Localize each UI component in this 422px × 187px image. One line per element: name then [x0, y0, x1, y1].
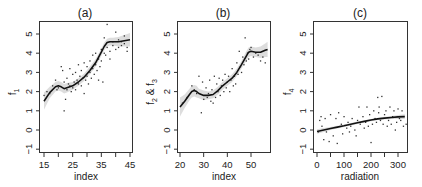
data-point	[325, 118, 326, 119]
data-point	[379, 106, 380, 107]
data-point	[352, 118, 353, 119]
data-point	[249, 49, 250, 50]
data-point	[211, 89, 212, 90]
data-point	[66, 89, 67, 90]
data-point	[124, 35, 125, 36]
data-point	[380, 120, 381, 121]
data-point	[81, 70, 82, 71]
data-point	[72, 74, 73, 75]
data-point	[104, 37, 105, 38]
data-point	[250, 47, 251, 48]
data-point	[104, 53, 105, 54]
y-tick-label: 0	[297, 127, 308, 132]
data-point	[242, 56, 243, 57]
data-point	[223, 91, 224, 92]
data-point	[319, 120, 320, 121]
data-point	[376, 122, 377, 123]
data-point	[75, 72, 76, 73]
data-point	[369, 114, 370, 115]
data-point	[396, 122, 397, 123]
y-tick-label: 1	[297, 108, 308, 113]
data-point	[109, 51, 110, 52]
data-point	[343, 116, 344, 117]
data-point	[393, 110, 394, 111]
data-point	[76, 80, 77, 81]
data-point	[356, 135, 357, 136]
data-point	[224, 74, 225, 75]
data-point	[58, 87, 59, 88]
panel-a-ylabel: f1	[7, 89, 20, 96]
data-point	[258, 55, 259, 56]
data-point	[109, 58, 110, 59]
data-point	[387, 126, 388, 127]
data-point	[191, 85, 192, 86]
data-point	[52, 85, 53, 86]
data-point	[46, 91, 47, 92]
data-point	[372, 124, 373, 125]
data-point	[71, 91, 72, 92]
data-point	[342, 133, 343, 134]
x-tick-label: 45	[125, 159, 136, 170]
panel-a-x-axis: 15253545	[39, 153, 136, 170]
y-tick-label: 4	[23, 51, 34, 56]
y-tick-label: 3	[297, 70, 308, 75]
data-point	[62, 70, 63, 71]
panel-c-ylabel-sub: 4	[288, 89, 295, 93]
data-point	[326, 131, 327, 132]
x-tick-label: 200	[363, 159, 379, 170]
data-point	[321, 126, 322, 127]
data-point	[56, 89, 57, 90]
data-point	[253, 56, 254, 57]
data-point	[88, 83, 89, 84]
panel-b-xlabel: index	[212, 171, 236, 182]
data-point	[94, 74, 95, 75]
panel-a-points	[43, 24, 127, 112]
panel-b-curve	[180, 49, 268, 107]
data-point	[89, 60, 90, 61]
data-point	[384, 114, 385, 115]
y-tick-label: 4	[297, 51, 308, 56]
data-point	[406, 124, 407, 125]
data-point	[96, 70, 97, 71]
data-point	[338, 112, 339, 113]
data-point	[400, 120, 401, 121]
data-point	[357, 120, 358, 121]
data-point	[360, 124, 361, 125]
data-point	[347, 122, 348, 123]
y-tick-label: −1	[23, 144, 34, 155]
y-tick-label: 2	[297, 89, 308, 94]
panel-a-title: (a)	[78, 6, 93, 20]
data-point	[222, 80, 223, 81]
data-point	[358, 106, 359, 107]
data-point	[215, 97, 216, 98]
data-point	[210, 101, 211, 102]
x-tick-label: 0	[314, 159, 319, 170]
data-point	[118, 39, 119, 40]
data-point	[55, 80, 56, 81]
data-point	[74, 81, 75, 82]
data-point	[209, 80, 210, 81]
data-point	[124, 43, 125, 44]
data-point	[346, 128, 347, 129]
data-point	[330, 114, 331, 115]
figure: (a) −1012345 15253545 index f1 (b) −1012…	[0, 0, 422, 187]
panel-a-band	[44, 33, 130, 110]
data-point	[399, 118, 400, 119]
data-point	[78, 64, 79, 65]
data-point	[115, 49, 116, 50]
data-point	[198, 76, 199, 77]
data-point	[237, 74, 238, 75]
y-tick-label: 5	[161, 31, 172, 36]
data-point	[395, 129, 396, 130]
panel-b-band	[180, 42, 268, 117]
data-point	[127, 47, 128, 48]
data-point	[350, 126, 351, 127]
panel-b-y-axis: −1012345	[161, 31, 178, 154]
data-point	[205, 87, 206, 88]
data-point	[245, 37, 246, 38]
data-point	[61, 66, 62, 67]
y-tick-label: 0	[161, 127, 172, 132]
y-tick-label: 2	[23, 89, 34, 94]
panel-c-xlabel: radiation	[341, 171, 379, 182]
data-point	[373, 110, 374, 111]
